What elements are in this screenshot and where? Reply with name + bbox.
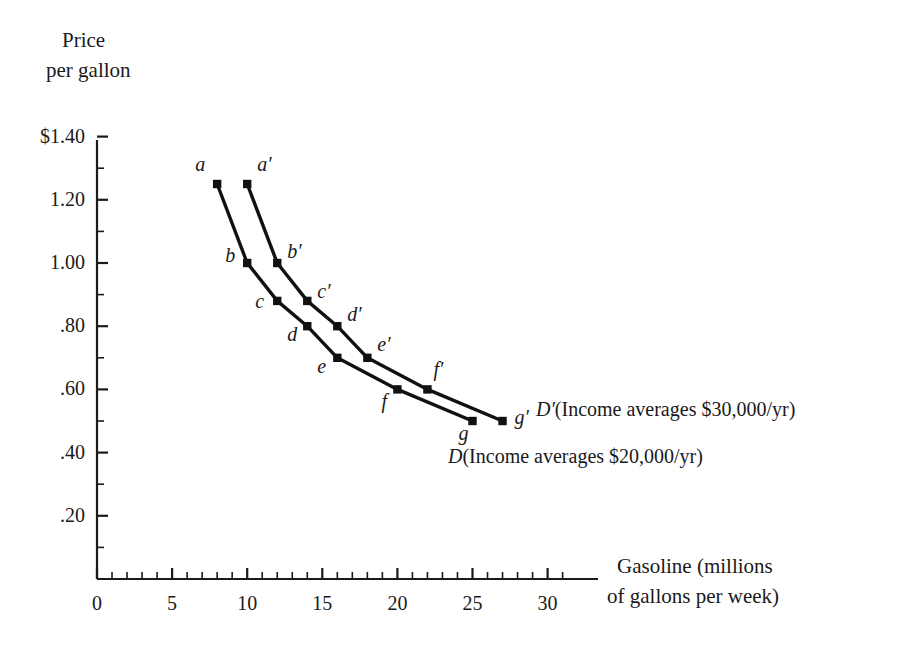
y-tick-label-60: .60	[60, 378, 85, 398]
point-label-f-prime: f′	[433, 359, 443, 379]
x-tick-label-5: 5	[167, 593, 177, 613]
point-label-f: f	[381, 391, 387, 411]
data-point-c-prime	[303, 297, 311, 305]
data-point-c	[273, 297, 281, 305]
x-tick-label-15: 15	[312, 593, 332, 613]
y-tick-label-80: .80	[60, 315, 85, 335]
chart-figure: Price per gallon Gasoline (millions of g…	[0, 0, 916, 655]
data-point-a	[213, 180, 221, 188]
point-label-g: g	[459, 423, 469, 443]
point-label-d-prime: d′	[347, 304, 361, 324]
point-label-e-prime: e′	[377, 334, 390, 354]
point-label-g-prime: g′	[515, 407, 529, 427]
data-point-a-prime	[243, 180, 251, 188]
data-point-g	[468, 417, 476, 425]
point-label-c-prime: c′	[317, 281, 330, 301]
point-label-a-prime: a′	[257, 154, 271, 174]
data-point-d	[303, 322, 311, 330]
legend-d: D(Income averages $20,000/yr)	[448, 446, 703, 466]
legend-d-symbol: D	[448, 445, 462, 467]
point-label-b: b	[225, 245, 235, 265]
data-point-f-prime	[423, 385, 431, 393]
y-tick-label-120: 1.20	[50, 189, 85, 209]
data-point-e-prime	[363, 354, 371, 362]
point-label-c: c	[255, 291, 264, 311]
axis-ticks	[97, 137, 563, 579]
legend-d-prime-symbol: D′	[536, 398, 555, 420]
y-tick-label-40: .40	[60, 442, 85, 462]
point-label-b-prime: b′	[287, 241, 301, 261]
x-tick-label-25: 25	[463, 593, 483, 613]
data-point-d-prime	[333, 322, 341, 330]
y-tick-label-140: $1.40	[40, 126, 85, 146]
data-point-b	[243, 259, 251, 267]
legend-d-prime: D′(Income averages $30,000/yr)	[536, 399, 795, 419]
data-point-g-prime	[498, 417, 506, 425]
data-point-e	[333, 354, 341, 362]
x-tick-label-10: 10	[237, 593, 257, 613]
axes	[97, 140, 598, 579]
point-label-d: d	[287, 324, 297, 344]
plot-canvas	[0, 0, 916, 655]
x-tick-label-30: 30	[538, 593, 558, 613]
data-point-b-prime	[273, 259, 281, 267]
data-point-f	[393, 385, 401, 393]
y-tick-label-100: 1.00	[50, 252, 85, 272]
series-line-D-prime	[247, 184, 502, 421]
legend-d-prime-text: (Income averages $30,000/yr)	[555, 398, 795, 420]
x-tick-label-0: 0	[92, 593, 102, 613]
legend-d-text: (Income averages $20,000/yr)	[462, 445, 702, 467]
point-label-e: e	[317, 356, 326, 376]
x-tick-label-20: 20	[387, 593, 407, 613]
y-tick-label-20: .20	[60, 505, 85, 525]
point-label-a: a	[195, 154, 205, 174]
